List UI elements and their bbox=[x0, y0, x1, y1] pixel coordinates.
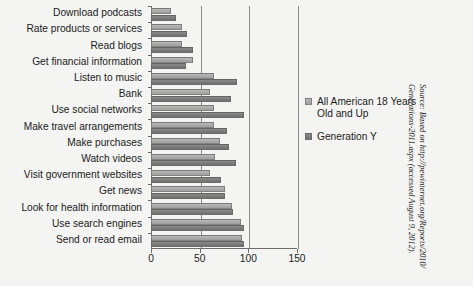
bar bbox=[151, 105, 214, 111]
bar-group bbox=[151, 217, 297, 233]
bar-group bbox=[151, 152, 297, 168]
bar-group bbox=[151, 200, 297, 216]
bar-group bbox=[151, 71, 297, 87]
legend-swatch-icon bbox=[305, 133, 312, 140]
bar bbox=[151, 170, 210, 176]
bar bbox=[151, 225, 244, 231]
bar bbox=[151, 144, 229, 150]
bar bbox=[151, 79, 237, 85]
gridline bbox=[298, 6, 299, 249]
source-note: Source: Based on http://pewinternet.org/… bbox=[388, 0, 428, 286]
bar-group bbox=[151, 168, 297, 184]
bar-group bbox=[151, 119, 297, 135]
category-label: Rate products or services bbox=[26, 24, 142, 34]
bar-group bbox=[151, 136, 297, 152]
category-label: Watch videos bbox=[81, 154, 142, 164]
bar bbox=[151, 47, 193, 53]
category-label: Bank bbox=[119, 89, 142, 99]
bar bbox=[151, 219, 241, 225]
legend-label: Generation Y bbox=[317, 131, 377, 143]
bar bbox=[151, 138, 220, 144]
bar bbox=[151, 122, 214, 128]
plot-area bbox=[151, 6, 297, 249]
legend-swatch-icon bbox=[305, 98, 312, 105]
x-tick-label: 50 bbox=[194, 253, 205, 264]
x-tick-label: 100 bbox=[240, 253, 257, 264]
bar-group bbox=[151, 22, 297, 38]
category-label: Send or read email bbox=[56, 235, 142, 245]
category-label: Look for health information bbox=[21, 203, 142, 213]
bar-group bbox=[151, 38, 297, 54]
bar bbox=[151, 31, 187, 37]
bar bbox=[151, 209, 233, 215]
bar bbox=[151, 235, 242, 241]
category-label: Make travel arrangements bbox=[24, 122, 142, 132]
category-axis: Download podcastsRate products or servic… bbox=[0, 6, 146, 249]
category-label: Make purchases bbox=[67, 138, 142, 148]
bar bbox=[151, 112, 244, 118]
category-label: Use search engines bbox=[52, 219, 142, 229]
bar bbox=[151, 73, 214, 79]
category-label: Get news bbox=[99, 186, 142, 196]
category-label: Download podcasts bbox=[53, 8, 142, 18]
bar bbox=[151, 89, 210, 95]
bar bbox=[151, 41, 182, 47]
bar bbox=[151, 193, 225, 199]
x-tick-label: 0 bbox=[148, 253, 154, 264]
bar bbox=[151, 57, 193, 63]
bar bbox=[151, 96, 231, 102]
category-label: Read blogs bbox=[90, 41, 142, 51]
bar bbox=[151, 177, 221, 183]
bar-group bbox=[151, 233, 297, 249]
bar bbox=[151, 160, 236, 166]
x-axis: 050100150 bbox=[151, 249, 301, 271]
bar bbox=[151, 15, 176, 21]
bar bbox=[151, 154, 215, 160]
bar-group bbox=[151, 184, 297, 200]
bar bbox=[151, 24, 182, 30]
bar-group bbox=[151, 87, 297, 103]
bar bbox=[151, 186, 225, 192]
x-tick-label: 150 bbox=[289, 253, 306, 264]
bar-group bbox=[151, 55, 297, 71]
category-label: Listen to music bbox=[74, 73, 142, 83]
bar bbox=[151, 63, 186, 69]
bar bbox=[151, 203, 232, 209]
bar bbox=[151, 128, 227, 134]
bar bbox=[151, 8, 171, 14]
bar bbox=[151, 241, 244, 247]
bar-group bbox=[151, 103, 297, 119]
category-label: Visit government websites bbox=[24, 170, 142, 180]
category-label: Get financial information bbox=[32, 57, 142, 67]
chart-figure: Download podcastsRate products or servic… bbox=[0, 0, 473, 286]
bar-group bbox=[151, 6, 297, 22]
category-label: Use social networks bbox=[51, 105, 142, 115]
